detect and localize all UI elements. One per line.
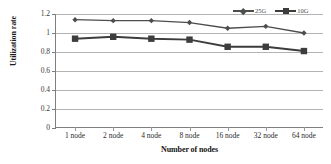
data-point-10G: [224, 44, 230, 50]
y-tick-label: 0.6: [24, 67, 50, 75]
data-point-25G: [72, 17, 77, 22]
y-tick-label: 1: [24, 29, 50, 37]
y-tick-label: 1.2: [24, 10, 50, 18]
x-tick-label: 64 node: [281, 131, 327, 140]
y-tick-label: 0.2: [24, 105, 50, 113]
data-point-25G: [111, 18, 116, 23]
legend-entry-25G[interactable]: 25G: [233, 7, 266, 15]
legend-swatch-diamond-icon: [233, 7, 254, 15]
chart-legend: 25G10G: [233, 5, 308, 17]
legend-label: 10G: [297, 7, 308, 15]
data-point-10G: [186, 36, 192, 42]
data-point-25G: [187, 20, 192, 25]
data-point-25G: [149, 18, 154, 23]
y-tick-mark: [52, 128, 56, 129]
legend-entry-10G[interactable]: 10G: [275, 7, 308, 15]
data-point-10G: [72, 36, 78, 42]
y-tick-label: 0.8: [24, 48, 50, 56]
y-axis-title: Utilization rate: [7, 0, 21, 91]
data-point-10G: [148, 36, 154, 42]
data-point-10G: [263, 44, 269, 50]
data-point-10G: [110, 34, 116, 40]
y-tick-label: 0.4: [24, 86, 50, 94]
data-point-25G: [225, 26, 230, 31]
legend-swatch-square-icon: [275, 7, 296, 15]
plot-area: [56, 14, 323, 128]
x-axis-title: Number of nodes: [56, 145, 323, 154]
legend-label: 25G: [255, 7, 266, 15]
data-point-25G: [263, 24, 268, 29]
data-series-layer: [56, 14, 323, 128]
utilization-rate-line-chart: Utilization rate 00.20.40.60.811.2 1 nod…: [0, 0, 331, 164]
data-point-25G: [301, 30, 306, 35]
data-point-10G: [301, 48, 307, 54]
y-tick-label: 0: [24, 124, 50, 132]
